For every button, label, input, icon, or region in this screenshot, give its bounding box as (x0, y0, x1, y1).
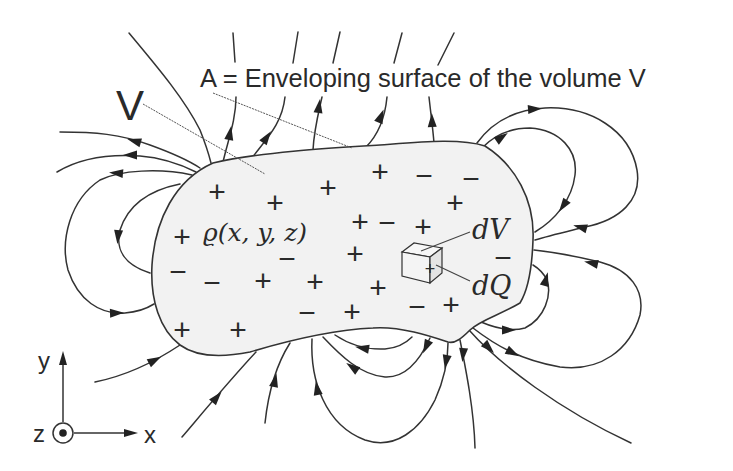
positive-charge-symbol: + (319, 171, 337, 204)
positive-charge-symbol: + (446, 186, 464, 219)
charge-element-label: dQ (472, 270, 511, 301)
negative-charge-symbol: − (462, 162, 480, 195)
positive-charge-symbol: + (371, 155, 389, 188)
field-line-top-5b (366, 97, 387, 147)
negative-charge-symbol: − (378, 206, 396, 239)
positive-charge-symbol: + (266, 186, 284, 219)
negative-charge-symbol: − (169, 255, 187, 288)
field-line-top-3a (293, 32, 298, 63)
positive-charge-symbol: + (369, 271, 387, 304)
volume-element-cube: + (402, 243, 442, 283)
coordinate-axes: y x z (33, 347, 156, 448)
positive-charge-symbol: + (173, 313, 191, 346)
surface-label: A = Enveloping surface of the volume V (200, 64, 646, 92)
field-line-top-5a (394, 33, 402, 63)
field-line-top-2a (233, 33, 235, 62)
field-line-bottom-right-long (469, 330, 631, 443)
cube-charge-symbol: + (425, 259, 436, 279)
charge-distribution-diagram: A = Enveloping surface of the volume V V… (0, 0, 733, 471)
field-line-bottom-u-loop (312, 339, 448, 443)
z-axis-dot-icon (59, 429, 67, 437)
positive-charge-symbol: + (442, 288, 460, 321)
negative-charge-symbol: − (278, 242, 296, 275)
x-axis-arrowhead (124, 429, 138, 437)
field-line-bottom-loop-2 (335, 335, 412, 349)
volume-element-label: dV (472, 214, 511, 245)
field-line-bottom-3 (265, 343, 290, 423)
negative-charge-symbol: − (203, 266, 221, 299)
positive-charge-symbol: + (208, 175, 226, 208)
positive-charge-symbol: + (414, 210, 432, 243)
x-axis-label: x (144, 421, 156, 448)
field-line-top-4a (333, 32, 340, 63)
y-axis-arrowhead (59, 351, 67, 365)
positive-charge-symbol: + (306, 265, 324, 298)
field-line-left-1 (60, 132, 200, 168)
field-line-top-3b (252, 97, 285, 158)
negative-charge-symbol: − (298, 296, 316, 329)
y-axis-label: y (38, 347, 50, 374)
field-line-top-6a (438, 33, 454, 65)
positive-charge-symbol: + (346, 237, 364, 270)
negative-charge-symbol: − (415, 159, 433, 192)
negative-charge-symbol: − (408, 290, 426, 323)
z-axis-label: z (33, 420, 45, 447)
positive-charge-symbol: + (229, 313, 247, 346)
field-line-left-2 (57, 156, 196, 172)
field-line-bottom-1 (95, 345, 180, 382)
field-line-bottom-loop-1 (323, 337, 430, 377)
volume-label: V (116, 82, 144, 129)
positive-charge-symbol: + (173, 220, 191, 253)
positive-charge-symbol: + (343, 295, 361, 328)
positive-charge-symbol: + (351, 205, 369, 238)
positive-charge-symbol: + (254, 264, 272, 297)
